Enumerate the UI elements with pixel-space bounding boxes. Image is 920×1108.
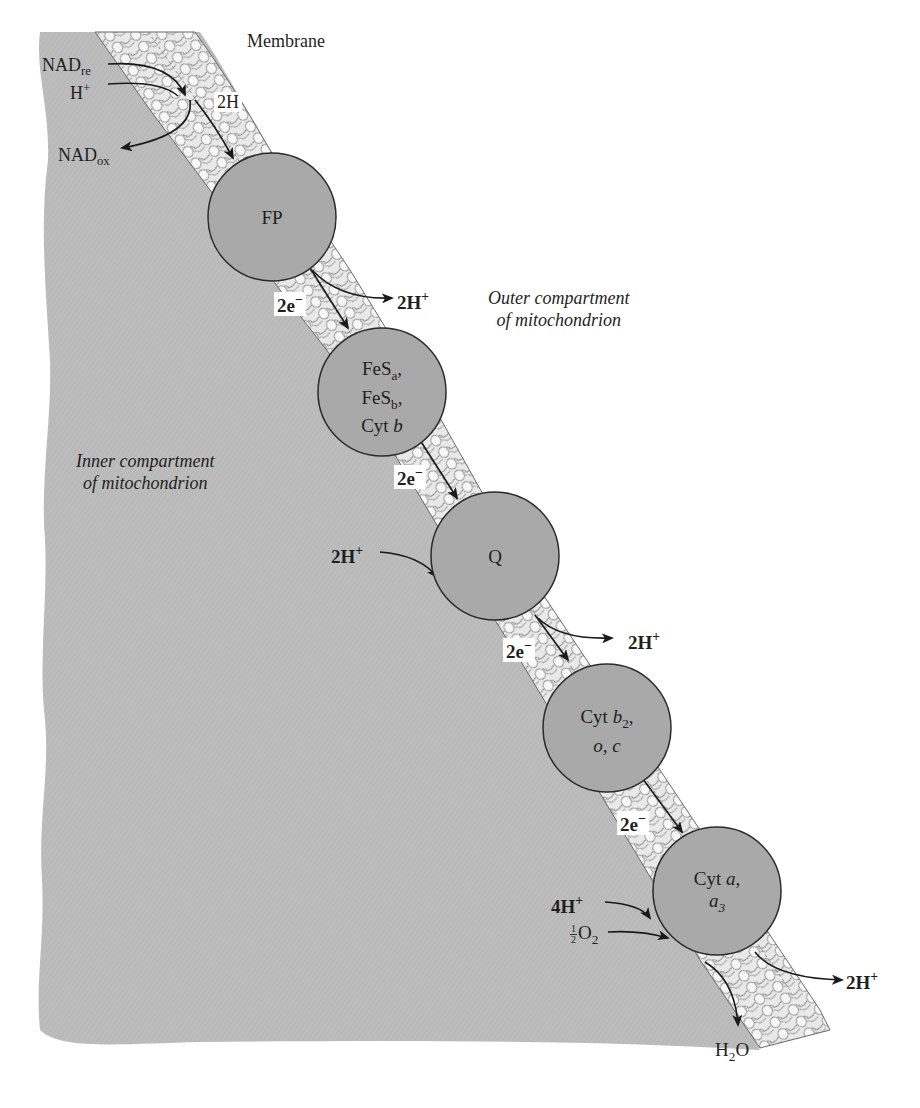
oxygen-label: 12O2: [570, 923, 598, 946]
h-plus-label: H+: [70, 82, 90, 102]
one-half-fraction: 12: [570, 924, 577, 945]
proton-in-label-cyt-a: 4H+: [551, 894, 583, 916]
electron-label-3: 2e−: [503, 638, 535, 662]
proton-out-label-3: 2H+: [846, 970, 878, 992]
two-h-label: 2H: [214, 92, 242, 112]
proton-out-label-2: 2H+: [628, 630, 660, 652]
inner-compartment-label: Inner compartment of mitochondrion: [76, 450, 214, 494]
complex-fes-label: FeSa, FeSb, Cyt b: [332, 358, 432, 437]
nad-oxidized-label: NADox: [58, 146, 110, 168]
membrane-label: Membrane: [247, 32, 325, 50]
complex-cyt-b2-label: Cyt b2, o, c: [557, 706, 657, 757]
electron-label-4: 2e−: [617, 811, 649, 835]
proton-in-label-q: 2H+: [331, 544, 363, 566]
inner-compartment-region: [39, 32, 760, 1050]
electron-transport-diagram: Membrane NADre H+ NADox 2H Outer compart…: [0, 0, 920, 1108]
outer-compartment-label: Outer compartment of mitochondrion: [488, 287, 629, 331]
complex-cyt-a-label: Cyt a, a3: [667, 868, 767, 919]
water-label: H2O: [715, 1040, 749, 1063]
nad-reduced-label: NADre: [42, 56, 91, 78]
proton-out-label-1: 2H+: [397, 290, 429, 312]
electron-label-2: 2e−: [394, 465, 426, 489]
electron-label-1: 2e−: [274, 292, 306, 316]
complex-fp-label: FP: [222, 207, 322, 229]
complex-q-label: Q: [445, 546, 545, 568]
